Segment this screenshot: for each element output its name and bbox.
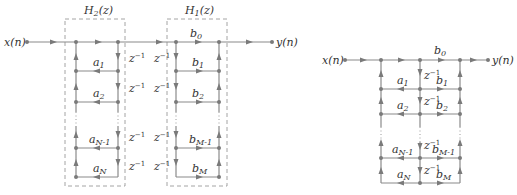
right-aN: aN <box>397 168 412 182</box>
svg-text:z−1: z−1 <box>153 131 170 144</box>
svg-text:z−1: z−1 <box>153 82 170 95</box>
right-nodes <box>343 58 490 185</box>
right-aN-1: aN-1 <box>392 143 413 157</box>
left-aN: aN <box>93 162 108 176</box>
svg-text:z−1: z−1 <box>128 160 145 173</box>
left-delay-labels: z−1 z−1 z−1 z−1 z−1 z−1 z−1 z−1 <box>128 52 170 173</box>
right-input-label: x(n) <box>322 54 344 67</box>
left-b2: b2 <box>192 87 204 101</box>
left-diagram-direct-form-i: H2(z) H1(z) x(n) y(n) b0 <box>4 4 298 186</box>
svg-text:z−1: z−1 <box>128 82 145 95</box>
left-bM: bM <box>192 162 208 176</box>
right-diagram-direct-form-ii: x(n) y(n) b0 <box>322 44 514 186</box>
left-b0: b0 <box>190 27 202 41</box>
left-b1: b1 <box>192 56 204 70</box>
left-a2: a2 <box>93 87 105 101</box>
left-bM-1: bM-1 <box>189 133 212 147</box>
left-nodes <box>25 40 274 179</box>
left-input-label: x(n) <box>4 36 26 49</box>
h2-label: H2(z) <box>83 4 113 18</box>
left-output-label: y(n) <box>275 36 298 49</box>
h1-label: H1(z) <box>184 4 214 18</box>
right-a1: a1 <box>397 74 409 88</box>
svg-text:z−1: z−1 <box>153 160 170 173</box>
left-a1: a1 <box>93 56 105 70</box>
svg-text:z−1: z−1 <box>128 52 145 65</box>
signal-flow-diagrams: H2(z) H1(z) x(n) y(n) b0 <box>0 0 517 195</box>
left-aN-1: aN-1 <box>89 133 110 147</box>
right-a2: a2 <box>397 99 409 113</box>
svg-text:z−1: z−1 <box>128 131 145 144</box>
right-b0: b0 <box>434 44 446 58</box>
right-output-label: y(n) <box>491 54 514 67</box>
svg-text:z−1: z−1 <box>153 52 170 65</box>
